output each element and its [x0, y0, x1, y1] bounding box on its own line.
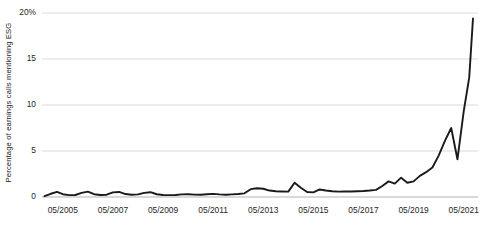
y-axis-tick-label: 10 [27, 99, 37, 109]
chart-plot-area: 05101520% 05/200505/200705/200905/201105… [0, 0, 485, 237]
x-axis-tick-label: 05/2007 [98, 205, 129, 215]
x-axis-tick-label: 05/2011 [198, 205, 228, 215]
y-axis-tick-label: 20% [19, 7, 36, 17]
x-axis-tick-label: 05/2009 [148, 205, 179, 215]
x-axis-tick-label: 05/2019 [398, 205, 429, 215]
x-axis-tick-label: 05/2013 [248, 205, 279, 215]
y-axis-tick-label: 15 [27, 53, 37, 63]
x-axis-tick-label: 05/2017 [348, 205, 379, 215]
y-axis-tick-label: 0 [31, 191, 36, 201]
gridlines-group [42, 13, 478, 197]
esg-trend-line [45, 19, 473, 197]
y-axis-tick-labels: 05101520% [19, 7, 36, 201]
esg-earnings-calls-chart: Percentage of earnings calls mentioning … [0, 0, 485, 237]
x-axis-tick-label: 05/2015 [298, 205, 329, 215]
x-axis-tick-labels: 05/200505/200705/200905/201105/201305/20… [48, 205, 480, 215]
x-axis-tick-label: 05/2005 [48, 205, 79, 215]
y-axis-tick-label: 5 [31, 145, 36, 155]
x-axis-tick-label: 05/2021 [449, 205, 480, 215]
